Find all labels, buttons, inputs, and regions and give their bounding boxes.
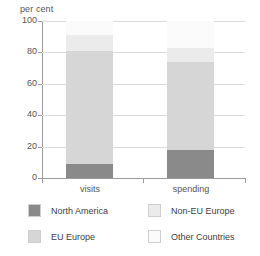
legend-label-north-america: North America: [51, 206, 108, 216]
y-tick-label-0: 0: [1, 172, 37, 182]
legend-item-eu-europe[interactable]: EU Europe: [28, 230, 95, 243]
y-tick-100: [38, 21, 42, 22]
y-tick-label-100: 100: [1, 15, 37, 25]
y-tick-label-80: 80: [1, 46, 37, 56]
bar-visits-segment-north-america: [66, 164, 113, 178]
x-axis-line: [42, 178, 246, 179]
stacked-bar-chart: per cent 100 80: [0, 0, 260, 256]
legend-item-other-countries[interactable]: Other Countries: [148, 230, 235, 243]
y-tick-label-40: 40: [1, 109, 37, 119]
y-tick-80: [38, 52, 42, 53]
bar-spending-segment-eu-europe: [167, 62, 214, 150]
x-tick-left: [42, 179, 43, 183]
y-axis-unit-label: per cent: [20, 4, 53, 14]
legend-swatch-north-america: [28, 204, 41, 217]
legend-swatch-other-countries: [148, 230, 161, 243]
y-tick-label-60: 60: [1, 78, 37, 88]
legend-item-north-america[interactable]: North America: [28, 204, 108, 217]
legend-label-non-eu-europe: Non-EU Europe: [171, 206, 235, 216]
x-tick-right: [245, 179, 246, 183]
legend-swatch-eu-europe: [28, 230, 41, 243]
bar-visits-segment-other-countries: [66, 21, 113, 35]
y-tick-40: [38, 115, 42, 116]
bar-spending-segment-other-countries: [167, 21, 214, 48]
x-axis-label-spending: spending: [163, 184, 219, 194]
legend: North America EU Europe Non-EU Europe Ot…: [0, 200, 260, 252]
legend-item-non-eu-europe[interactable]: Non-EU Europe: [148, 204, 235, 217]
y-tick-label-20: 20: [1, 141, 37, 151]
bar-visits[interactable]: [66, 21, 113, 178]
y-tick-20: [38, 147, 42, 148]
y-tick-60: [38, 84, 42, 85]
bar-visits-segment-eu-europe: [66, 51, 113, 164]
legend-label-other-countries: Other Countries: [171, 232, 235, 242]
legend-swatch-non-eu-europe: [148, 204, 161, 217]
x-axis-label-visits: visits: [62, 184, 118, 194]
legend-label-eu-europe: EU Europe: [51, 232, 95, 242]
bar-spending-segment-north-america: [167, 150, 214, 178]
bar-visits-segment-non-eu-europe: [66, 35, 113, 51]
x-tick-middle: [143, 179, 144, 183]
plot-area: [42, 21, 245, 178]
bar-spending[interactable]: [167, 21, 214, 178]
bar-spending-segment-non-eu-europe: [167, 48, 214, 62]
